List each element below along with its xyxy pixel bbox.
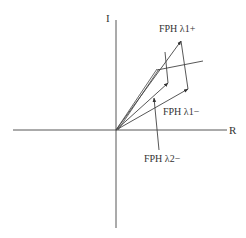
- cross-line: [157, 61, 203, 70]
- axis-label-i: I: [106, 12, 110, 24]
- label-fph-lambda1-minus: FPH λ1−: [163, 106, 200, 117]
- label-fph-lambda1-plus: FPH λ1+: [159, 23, 196, 34]
- phasor-diagram: I R FPH λ1+ FPH λ1− FPH λ2−: [0, 0, 246, 238]
- label-fph-lambda2-minus: FPH λ2−: [144, 153, 181, 164]
- vector-inner: [116, 83, 168, 130]
- axis-label-r: R: [229, 124, 237, 136]
